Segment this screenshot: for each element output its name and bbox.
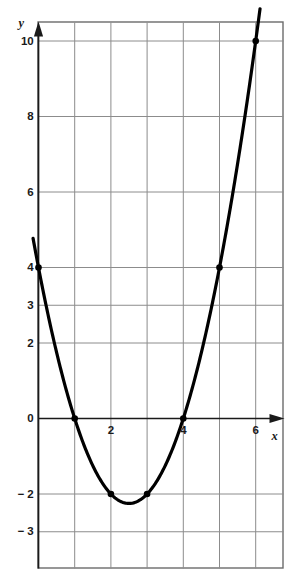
y-tick-label: 4: [27, 262, 33, 274]
data-point: [180, 415, 187, 422]
x-tick-label: 4: [171, 425, 195, 437]
x-tick-label: 6: [244, 425, 268, 437]
data-point: [108, 491, 115, 498]
parabola-curve: [33, 9, 260, 504]
y-axis-arrowhead: [34, 22, 43, 37]
vertical-gridlines: [75, 23, 256, 569]
data-point: [252, 38, 259, 45]
data-point: [35, 264, 42, 271]
y-tick-label: 2: [27, 338, 33, 350]
y-tick-label: − 2: [18, 489, 34, 501]
y-tick-label: − 3: [18, 526, 34, 538]
y-tick-label: 6: [27, 187, 33, 199]
y-tick-label: 3: [27, 300, 33, 312]
y-tick-label: 0: [27, 413, 33, 425]
parabola-plot: [0, 0, 299, 580]
x-tick-label: 2: [99, 425, 123, 437]
x-axis-arrowhead: [270, 414, 285, 423]
graph-figure: 10864320− 2− 3246 y x: [0, 0, 299, 580]
x-axis-label: x: [272, 430, 278, 443]
data-point: [216, 264, 223, 271]
data-point: [144, 491, 151, 498]
y-tick-label: 8: [27, 111, 33, 123]
y-tick-label: 10: [21, 36, 33, 48]
y-axis-label: y: [19, 17, 25, 30]
data-point: [71, 415, 78, 422]
